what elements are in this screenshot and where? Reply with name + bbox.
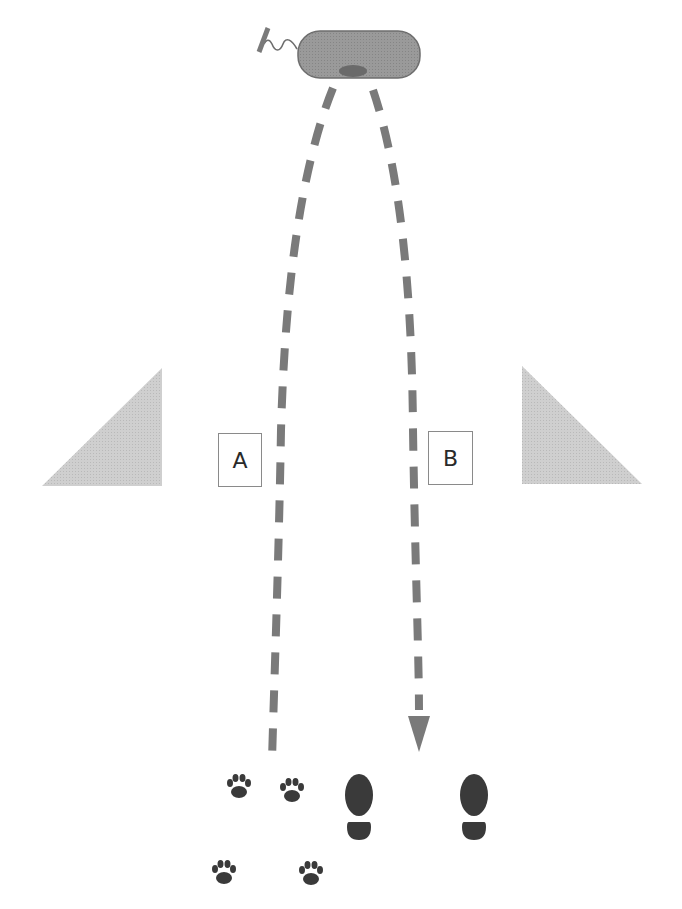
- paw-print-icon: [227, 774, 251, 798]
- shoe-print-icon: [345, 774, 373, 840]
- paw-print-icon: [280, 778, 304, 802]
- arrowhead-icon: [408, 716, 430, 752]
- right-triangle-right-icon: [522, 366, 642, 484]
- shoe-print-icon: [460, 774, 488, 840]
- bacterium-icon: [259, 28, 420, 78]
- diagram-graphics: [0, 0, 682, 909]
- path-b-line: [373, 90, 419, 710]
- paw-print-icon: [212, 860, 236, 884]
- path-a-line: [272, 88, 333, 760]
- paw-prints-group: [212, 774, 323, 885]
- label-a: A: [218, 433, 262, 487]
- label-a-text: A: [232, 448, 247, 473]
- paw-print-icon: [299, 861, 323, 885]
- label-b-text: B: [443, 446, 458, 471]
- right-triangle-left-icon: [42, 368, 162, 486]
- label-b: B: [428, 431, 473, 485]
- diagram-canvas: A B: [0, 0, 682, 909]
- shoe-prints-group: [345, 774, 488, 840]
